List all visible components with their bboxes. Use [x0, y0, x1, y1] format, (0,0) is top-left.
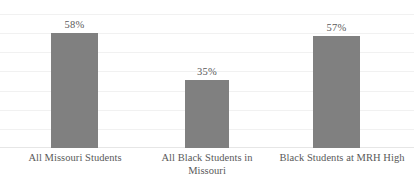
- category-label-line-1: All Black Students in: [161, 152, 252, 163]
- value-label-black-students-at-mrh-high: 57%: [313, 22, 360, 34]
- value-label-all-black-students-in-missouri: 35%: [185, 66, 229, 78]
- bar-black-students-at-mrh-high: [313, 36, 360, 148]
- gridline-70: [0, 14, 414, 15]
- plot-area: 58% 35% 57%: [0, 14, 414, 148]
- value-label-all-missouri-students: 58%: [51, 19, 98, 31]
- category-axis: All Missouri Students All Black Students…: [0, 151, 414, 188]
- category-label-all-missouri-students: All Missouri Students: [9, 151, 141, 164]
- category-label-line-2: Missouri: [188, 165, 226, 176]
- bar-all-missouri-students: [51, 33, 98, 148]
- bar-all-black-students-in-missouri: [185, 80, 229, 148]
- bar-chart-figure: 58% 35% 57% All Missouri Students All Bl…: [0, 0, 414, 188]
- category-label-all-black-students-in-missouri: All Black Students inMissouri: [145, 151, 269, 177]
- category-label-black-students-at-mrh-high: Black Students at MRH High: [270, 151, 414, 164]
